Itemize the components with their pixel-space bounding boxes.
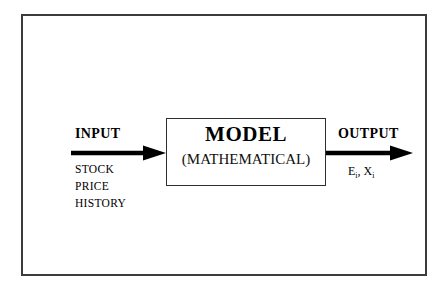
input-arrow-right-icon (71, 145, 167, 161)
input-label: INPUT (75, 126, 121, 142)
output-arrow-right-icon (326, 145, 414, 161)
output-variable-e-subscript: i (355, 171, 357, 180)
output-variables: Ei, Xi (348, 164, 374, 179)
input-item-list: STOCK PRICE HISTORY (75, 161, 126, 212)
output-variable-x-subscript: i (372, 171, 374, 180)
model-box: MODEL (MATHEMATICAL) (166, 118, 326, 186)
model-box-title: MODEL (167, 123, 325, 146)
list-item: STOCK (75, 161, 126, 178)
output-variable-x: X (364, 164, 373, 178)
model-box-subtitle: (MATHEMATICAL) (167, 151, 325, 168)
diagram-canvas: INPUT STOCK PRICE HISTORY MODEL (MATHEMA… (0, 0, 446, 292)
list-item: HISTORY (75, 195, 126, 212)
diagram-outer-frame: INPUT STOCK PRICE HISTORY MODEL (MATHEMA… (21, 14, 427, 276)
output-label: OUTPUT (338, 126, 399, 142)
list-item: PRICE (75, 178, 126, 195)
